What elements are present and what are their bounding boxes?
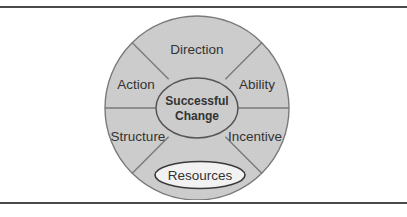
segment-label-action: Action bbox=[117, 77, 155, 92]
hub-label-line1: Successful bbox=[165, 94, 228, 108]
wheel-svg: Direction Ability Incentive Structure Ac… bbox=[0, 8, 407, 200]
segment-label-direction: Direction bbox=[170, 42, 223, 57]
segment-label-structure: Structure bbox=[111, 129, 166, 144]
bottom-horizontal-rule bbox=[0, 202, 407, 204]
hub-label-line2: Change bbox=[175, 109, 219, 123]
segment-label-incentive: Incentive bbox=[228, 129, 282, 144]
hub-circle bbox=[156, 78, 238, 138]
segment-label-ability: Ability bbox=[239, 77, 275, 92]
change-wheel-diagram: Direction Ability Incentive Structure Ac… bbox=[0, 8, 407, 200]
figure-page: Direction Ability Incentive Structure Ac… bbox=[0, 0, 407, 217]
segment-label-resources: Resources bbox=[168, 168, 233, 183]
